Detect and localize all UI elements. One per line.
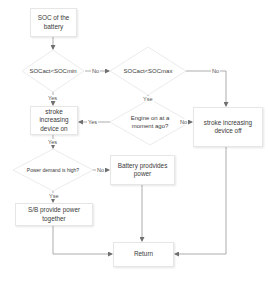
node-check-max: SOCact<SOCmax bbox=[116, 64, 180, 78]
node-stroke-off-label: stroke increasing device off bbox=[197, 119, 259, 136]
node-power-high: Power demand is high? bbox=[16, 164, 90, 176]
edge-label-power-yes: Yse bbox=[48, 193, 60, 199]
node-battery-power-label: Battery prodvides power bbox=[114, 162, 171, 179]
edge-label-min-no: No bbox=[91, 68, 100, 74]
node-engine-recent-label: Engine on at a moment ago? bbox=[124, 114, 176, 130]
flowchart-canvas: SOC of the battery stroke increasing dev… bbox=[0, 0, 270, 282]
node-check-max-label: SOCact<SOCmax bbox=[124, 67, 173, 75]
node-sb-power: S/B provide power together bbox=[15, 203, 93, 226]
edge-label-min-yes: Yes bbox=[47, 95, 58, 101]
node-return: Return bbox=[113, 242, 174, 267]
edge-label-max-yes: Yse bbox=[142, 96, 154, 102]
edge-label-engine-no: No bbox=[179, 119, 188, 125]
node-check-min: SOCact<SOCmin bbox=[22, 64, 84, 78]
edge-label-stroke-on-yes: Yes bbox=[47, 139, 58, 145]
edge-label-engine-yes: Yes bbox=[87, 119, 98, 125]
edge-label-power-no: No bbox=[96, 167, 105, 173]
node-start: SOC of the battery bbox=[30, 8, 77, 37]
node-check-min-label: SOCact<SOCmin bbox=[29, 67, 76, 75]
node-stroke-on-label: stroke increasing device on bbox=[34, 108, 74, 134]
node-engine-recent: Engine on at a moment ago? bbox=[124, 113, 176, 131]
node-return-label: Return bbox=[134, 250, 153, 259]
node-sb-power-label: S/B provide power together bbox=[19, 206, 89, 223]
node-stroke-on: stroke increasing device on bbox=[30, 106, 78, 135]
node-start-label: SOC of the battery bbox=[34, 14, 73, 31]
node-battery-power: Battery prodvides power bbox=[110, 155, 175, 185]
node-stroke-off: stroke increasing device off bbox=[193, 107, 263, 147]
node-power-high-label: Power demand is high? bbox=[27, 166, 79, 174]
edge-label-max-no: No bbox=[211, 68, 220, 74]
